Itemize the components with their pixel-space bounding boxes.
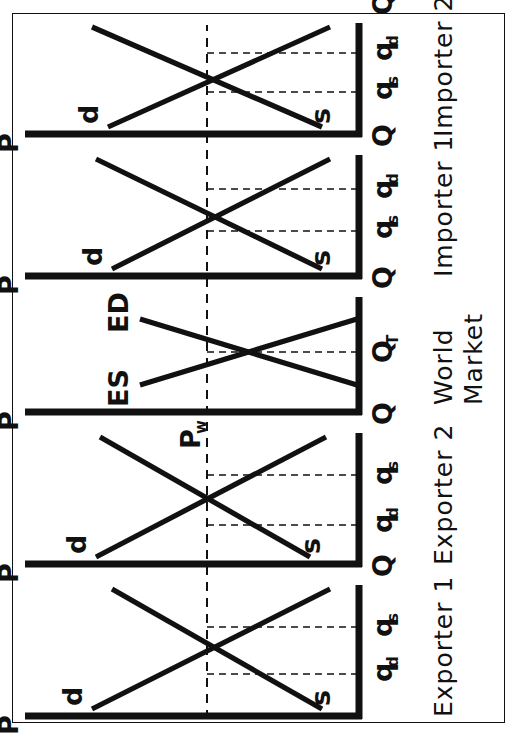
- world-excess-supply-label: ES: [103, 369, 134, 407]
- panel-world-market: ES ED P P w Q T Q World Market: [0, 266, 488, 449]
- importer-1-qd-sub: d: [384, 173, 402, 184]
- exporter-1-qd-sub: d: [384, 656, 402, 667]
- importer-2-demand-label: d: [73, 105, 104, 124]
- world-price-axis-label: P: [0, 411, 24, 431]
- importer-2-qd-sub: d: [384, 35, 402, 46]
- importer-1-demand-label: d: [77, 247, 108, 266]
- importer-1-price-label: P: [0, 275, 24, 295]
- exporter-2-quantity-label: Q: [367, 402, 398, 425]
- exporter-2-demand-label: d: [61, 535, 92, 554]
- exporter-2-price-label: P: [0, 563, 24, 583]
- importer-2-supply-label: s: [305, 108, 336, 124]
- world-title-line-2: Market: [459, 313, 488, 405]
- importer-2-qs-sub: s: [384, 76, 402, 85]
- exporter-2-qs-sub: s: [384, 461, 402, 470]
- exporter-2-supply-label: s: [295, 538, 326, 554]
- exporter-1-supply-label: s: [305, 690, 336, 706]
- exporter-1-price-label: P: [0, 715, 24, 735]
- panel-exporter-1: d s P q d q s Q Exporter 1: [0, 554, 458, 735]
- world-total-quantity-sub: T: [384, 334, 402, 345]
- importer-1-quantity-label: Q: [367, 124, 398, 147]
- importer-1-qs-sub: s: [384, 215, 402, 224]
- economics-diagram: .ax { stroke:#111; stroke-width:7; strok…: [0, 0, 519, 737]
- importer-1-title: Importer 1: [429, 135, 458, 277]
- exporter-1-qs-sub: s: [384, 613, 402, 622]
- importer-1-supply-curve: [96, 159, 322, 269]
- exporter-1-quantity-label: Q: [367, 554, 398, 577]
- exporter-1-demand-label: d: [57, 687, 88, 706]
- importer-1-demand-curve: [112, 159, 330, 269]
- importer-2-quantity-label: Q: [367, 0, 398, 15]
- exporter-2-title: Exporter 2: [429, 424, 458, 565]
- world-quantity-axis-label: Q: [367, 266, 398, 289]
- exporter-2-qd-sub: d: [384, 507, 402, 518]
- world-excess-demand-label: ED: [103, 292, 134, 333]
- rotated-figure-wrapper: .ax { stroke:#111; stroke-width:7; strok…: [0, 0, 519, 737]
- importer-1-supply-label: s: [305, 250, 336, 266]
- importer-2-demand-curve: [108, 27, 330, 127]
- importer-2-price-label: P: [0, 133, 24, 153]
- figure-canvas: .ax { stroke:#111; stroke-width:7; strok…: [0, 0, 519, 737]
- importer-2-title: Importer 2: [429, 0, 458, 137]
- world-price-value-sub: w: [192, 420, 210, 434]
- exporter-1-title: Exporter 1: [429, 576, 458, 717]
- figure-stage: .ax { stroke:#111; stroke-width:7; strok…: [0, 0, 519, 737]
- world-title-line-1: World: [429, 328, 458, 405]
